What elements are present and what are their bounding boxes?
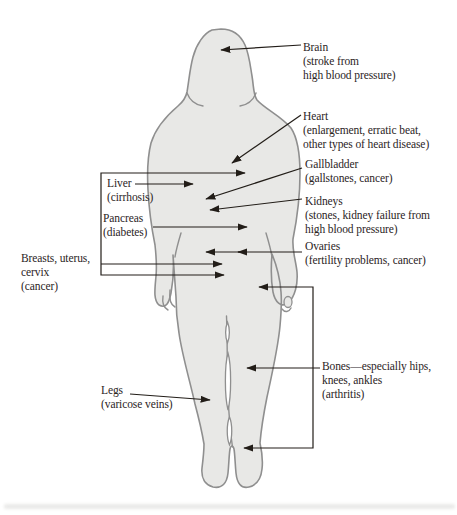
label-liver-organ: Liver [107,176,153,190]
label-brain-organ: Brain [303,40,396,54]
label-ovaries-organ: Ovaries [305,239,426,253]
label-pancreas-organ: Pancreas [103,211,147,225]
label-brain: Brain (stroke from high blood pressure) [303,40,396,82]
label-pancreas: Pancreas (diabetes) [103,211,147,239]
label-heart: Heart (enlargement, erratic beat, other … [303,109,429,151]
leg-gap-upper [226,322,230,343]
label-ovaries-detail: (fertility problems, cancer) [305,253,426,267]
label-gallbladder: Gallbladder (gallstones, cancer) [305,157,392,185]
label-kidneys: Kidneys (stones, kidney failure from hig… [305,194,430,236]
label-heart-detail: other types of heart disease) [303,137,429,151]
label-bones-organ: Bones—especially hips, [322,359,431,373]
label-liver-detail: (cirrhosis) [107,190,153,204]
label-gallbladder-detail: (gallstones, cancer) [305,171,392,185]
label-legs: Legs (varicose veins) [101,383,173,411]
label-legs-detail: (varicose veins) [101,397,173,411]
label-legs-organ: Legs [101,383,173,397]
label-breasts-organ: cervix [21,265,90,279]
label-brain-detail: (stroke from [303,54,396,68]
label-kidneys-organ: Kidneys [305,194,430,208]
right-hand-knuckle [284,297,292,308]
label-bones-detail: (arthritis) [322,387,431,401]
label-breasts-detail: (cancer) [21,279,90,293]
label-bones-organ: knees, ankles [322,373,431,387]
label-kidneys-detail: high blood pressure) [305,222,430,236]
leg-gap-lower [227,417,232,445]
right-hand-fingers [282,308,291,312]
label-pancreas-detail: (diabetes) [103,225,147,239]
body-silhouette [148,29,300,487]
label-breasts-uterus-cervix: Breasts, uterus, cervix (cancer) [21,251,90,293]
body-outline [148,29,300,487]
label-gallbladder-organ: Gallbladder [305,157,392,171]
page-edge-shadow [4,504,455,509]
leg-gap-middle [225,353,230,410]
label-brain-detail: high blood pressure) [303,68,396,82]
label-kidneys-detail: (stones, kidney failure from [305,208,430,222]
anatomy-diagram: Brain (stroke from high blood pressure) … [0,0,457,515]
label-ovaries: Ovaries (fertility problems, cancer) [305,239,426,267]
label-bones: Bones—especially hips, knees, ankles (ar… [322,359,431,401]
label-heart-organ: Heart [303,109,429,123]
label-breasts-organ: Breasts, uterus, [21,251,90,265]
label-liver: Liver (cirrhosis) [107,176,153,204]
label-heart-detail: (enlargement, erratic beat, [303,123,429,137]
